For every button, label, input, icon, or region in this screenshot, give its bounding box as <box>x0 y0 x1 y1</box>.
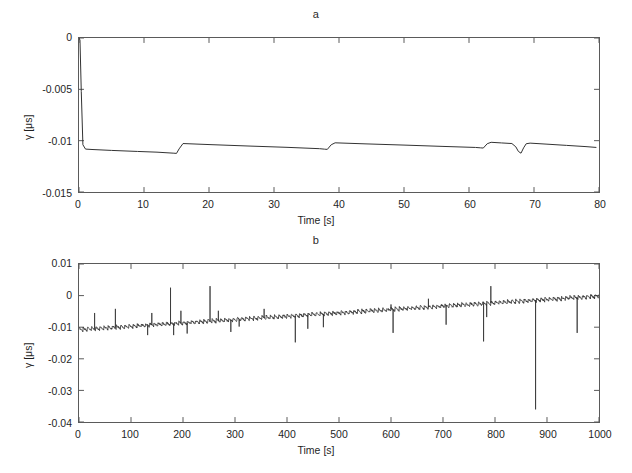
panel-a-ytick-3: -0.015 <box>26 187 72 199</box>
panel-a-xtick-4: 40 <box>333 198 345 210</box>
panel-a: a 0 -0.005 -0.01 -0.015 γ [μs] 0 10 20 3… <box>0 0 632 236</box>
panel-b-ytick-0: 0.01 <box>26 257 72 269</box>
figure-container: a 0 -0.005 -0.01 -0.015 γ [μs] 0 10 20 3… <box>0 0 632 473</box>
panel-b-xtick-10: 1000 <box>588 428 611 440</box>
panel-b-xtick-0: 0 <box>75 428 81 440</box>
panel-b-ytick-1: 0 <box>26 289 72 301</box>
panel-a-xtick-1: 10 <box>137 198 149 210</box>
panel-a-yaxis-label: γ [μs] <box>22 115 34 140</box>
panel-a-xtick-8: 80 <box>594 198 606 210</box>
panel-b: b 0.01 0 -0.01 -0.02 -0.03 -0.04 γ [μs] … <box>0 228 632 473</box>
panel-a-xaxis-label: Time [s] <box>0 214 632 226</box>
panel-a-xtick-2: 20 <box>202 198 214 210</box>
panel-a-plot-area <box>78 37 600 193</box>
panel-b-xaxis-label: Time [s] <box>0 444 632 456</box>
panel-a-xtick-3: 30 <box>268 198 280 210</box>
panel-b-ytick-2: -0.01 <box>26 321 72 333</box>
panel-a-ytick-1: -0.005 <box>26 83 72 95</box>
panel-b-xtick-5: 500 <box>330 428 348 440</box>
panel-b-title: b <box>0 234 632 246</box>
panel-b-xtick-7: 700 <box>434 428 452 440</box>
panel-a-title: a <box>0 8 632 20</box>
panel-a-xtick-5: 50 <box>398 198 410 210</box>
panel-a-ytick-0: 0 <box>26 31 72 43</box>
panel-a-xtick-7: 70 <box>529 198 541 210</box>
panel-b-xtick-8: 800 <box>487 428 505 440</box>
panel-b-ytick-4: -0.03 <box>26 385 72 397</box>
panel-a-xtick-0: 0 <box>75 198 81 210</box>
panel-b-xtick-9: 900 <box>539 428 557 440</box>
panel-b-xtick-6: 600 <box>382 428 400 440</box>
panel-b-data-line <box>79 264 599 422</box>
panel-b-xtick-4: 400 <box>278 428 296 440</box>
panel-b-xtick-2: 200 <box>173 428 191 440</box>
panel-b-ytick-5: -0.04 <box>26 417 72 429</box>
panel-b-plot-area <box>78 263 600 423</box>
panel-b-xtick-3: 300 <box>226 428 244 440</box>
panel-a-xtick-6: 60 <box>464 198 476 210</box>
panel-b-yaxis-label: γ [μs] <box>22 343 34 368</box>
panel-a-data-line <box>79 38 599 192</box>
panel-b-xtick-1: 100 <box>121 428 139 440</box>
